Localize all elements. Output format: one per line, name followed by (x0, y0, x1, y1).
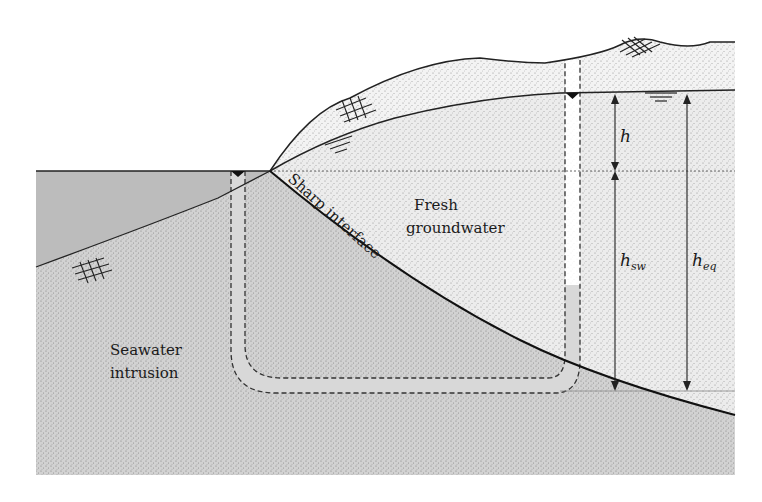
aquifer-cross-section-diagram: h hsw heq Fresh groundwater Seawater int… (0, 0, 762, 502)
label-intrusion: intrusion (110, 364, 179, 382)
label-fresh: Fresh (414, 196, 458, 214)
label-seawater: Seawater (110, 341, 183, 359)
label-h: h (620, 126, 631, 146)
label-groundwater: groundwater (406, 219, 505, 237)
